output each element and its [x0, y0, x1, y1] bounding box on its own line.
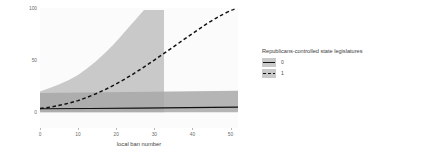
x-tick-label: 20: [108, 132, 124, 137]
x-tick-label: 0: [32, 132, 48, 137]
x-axis-ticks: 0 10 20 30 40 50: [40, 128, 238, 140]
chart-figure: lobbyist number 100 50 0 0 10 20 30 40: [0, 0, 424, 156]
y-tick-label: 50: [15, 58, 37, 63]
x-tick-label: 30: [146, 132, 162, 137]
solid-line-key-icon: [262, 58, 276, 67]
x-tick-label: 50: [223, 132, 239, 137]
chart-legend: Republicans-controlled state legislature…: [262, 48, 420, 80]
x-tick-mark: [40, 128, 41, 130]
x-tick-mark: [78, 128, 79, 130]
x-tick-mark: [231, 128, 232, 130]
x-tick-mark: [154, 128, 155, 130]
legend-item-1[interactable]: 1: [262, 69, 420, 78]
legend-item-label: 0: [281, 60, 284, 65]
dashed-line-key-icon: [262, 69, 276, 78]
legend-item-0[interactable]: 0: [262, 58, 420, 67]
legend-title: Republicans-controlled state legislature…: [262, 48, 420, 54]
legend-item-label: 1: [281, 71, 284, 76]
y-axis-ticks: 100 50 0: [10, 8, 37, 128]
plot-graphics: [40, 8, 238, 128]
x-tick-mark: [116, 128, 117, 130]
x-axis-label: local ban number: [40, 141, 238, 147]
y-tick-label: 0: [15, 110, 37, 115]
x-tick-mark: [192, 128, 193, 130]
x-tick-label: 10: [70, 132, 86, 137]
plot-panel: [40, 8, 238, 128]
y-tick-label: 100: [15, 6, 37, 11]
x-tick-label: 40: [184, 132, 200, 137]
